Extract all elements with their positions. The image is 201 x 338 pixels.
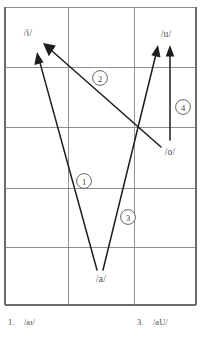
legend-item-3-number: 3.	[137, 317, 153, 327]
step-marker-1-label: 1	[82, 177, 86, 187]
arrow-2-group	[43, 43, 161, 147]
step-marker-3: 3	[121, 210, 136, 225]
vowel-label-u: /u/	[161, 29, 172, 39]
step-marker-2: 2	[93, 71, 108, 86]
vowel-diagram: 1 2 3 4 /i/ /u/ /o/ /a/ 1./aɪ/ 3./aU/	[0, 0, 201, 338]
legend-item-3-symbol: /aU/	[153, 317, 168, 327]
diphthong-legend: 1./aɪ/ 3./aU/	[0, 312, 201, 338]
arrow-1-head	[34, 52, 43, 65]
arrow-1-group	[34, 52, 97, 270]
step-marker-1: 1	[77, 174, 92, 189]
step-marker-2-label: 2	[98, 74, 102, 84]
step-marker-4: 4	[176, 100, 191, 115]
arrow-4-head	[166, 45, 175, 57]
arrow-3-shaft	[103, 54, 156, 270]
arrow-2-head	[43, 43, 56, 56]
legend-item-3: 3./aU/	[137, 317, 168, 327]
vowel-chart-svg: 1 2 3 4 /i/ /u/ /o/ /a/	[0, 0, 201, 338]
legend-item-1-symbol: /aɪ/	[24, 317, 35, 327]
legend-item-1-number: 1.	[8, 317, 24, 327]
vowel-label-i: /i/	[24, 28, 33, 38]
step-marker-3-label: 3	[126, 213, 130, 223]
vowel-label-a: /a/	[96, 274, 106, 284]
arrow-3-group	[103, 45, 161, 270]
legend-item-1: 1./aɪ/	[8, 317, 35, 327]
arrow-3-head	[151, 45, 160, 58]
vowel-label-o: /o/	[165, 147, 176, 157]
arrow-4-group	[166, 45, 175, 140]
